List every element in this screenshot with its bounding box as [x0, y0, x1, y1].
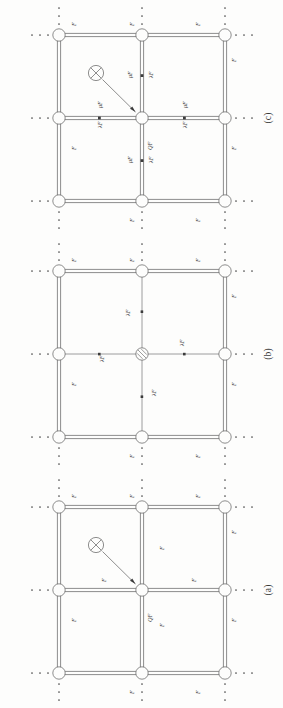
edge-label-left-lower: F	[194, 258, 201, 263]
spoke-right-far-label: λF	[147, 156, 154, 164]
spoke-down-near-label: F	[190, 578, 197, 583]
edge-label-right-lower: F	[194, 454, 201, 459]
panel-a: F F F F F F F F F F F F QF (a)	[24, 472, 260, 708]
spoke-left-far-label: λF	[147, 71, 154, 79]
edge-label-bottom-right: F	[230, 618, 237, 623]
spoke-up-far-label: λF	[96, 121, 103, 129]
edge-label-bottom-right: F	[230, 146, 237, 151]
spoke-down-far-label: λF	[181, 121, 188, 129]
diagonal-label: QF	[146, 614, 153, 622]
edge-label-bottom-right: F	[230, 382, 237, 387]
edge-label-right-lower: F	[194, 218, 201, 223]
spoke-up-near-label: λF	[98, 355, 105, 363]
spoke-right-near-label: λF	[150, 389, 157, 397]
panel-b-caption: (b)	[263, 348, 273, 360]
spoke-up-near-label: μF	[96, 101, 103, 108]
edge-label-top-right: F	[70, 146, 77, 151]
edge-label-right-upper: F	[128, 218, 135, 223]
hatched-center-node	[135, 348, 147, 360]
edge-label-bottom-left: F	[230, 530, 237, 535]
edge-label-top-left: F	[70, 22, 77, 27]
spoke-down-near-label: λF	[178, 339, 185, 347]
spoke-left-near-label: F	[158, 546, 165, 551]
edge-label-bottom-left: F	[230, 58, 237, 63]
edge-label-left-upper: F	[128, 22, 135, 27]
spoke-up-near-label: F	[100, 578, 107, 583]
edge-label-right-upper: F	[128, 690, 135, 695]
edge-label-right-lower: F	[194, 690, 201, 695]
spoke-down-near-label: μF	[181, 101, 188, 108]
figure-sheet: F F F F F F F F μF λF μF λF μF λF	[0, 0, 283, 708]
spoke-left-near-label: μF	[126, 71, 133, 78]
panel-a-labels: F F F F F F F F F F F F QF	[70, 494, 237, 695]
edge-label-top-right: F	[70, 618, 77, 623]
edge-label-top-right: F	[70, 382, 77, 387]
edge-label-top-left: F	[70, 494, 77, 499]
panel-b-labels: F F F F F F F F λF λF λF λF	[70, 258, 237, 459]
panel-c-labels: F F F F F F F F μF λF μF λF μF λF	[70, 22, 237, 223]
panel-a-caption: (a)	[263, 584, 273, 595]
edge-label-top-left: F	[70, 258, 77, 263]
spoke-right-near-label: μF	[126, 156, 133, 163]
edge-label-bottom-left: F	[230, 294, 237, 299]
panel-a-graphic: F F F F F F F F F F F F QF	[24, 472, 260, 708]
edge-label-right-upper: F	[128, 454, 135, 459]
spoke-right-near-label: F	[158, 623, 165, 628]
diagonal-label: QF	[146, 142, 153, 150]
edge-label-left-upper: F	[128, 258, 135, 263]
edge-label-left-lower: F	[194, 494, 201, 499]
panel-c-caption: (c)	[263, 112, 273, 123]
spoke-left-near-label: λF	[124, 309, 131, 317]
edge-label-left-upper: F	[128, 494, 135, 499]
edge-label-left-lower: F	[194, 22, 201, 27]
